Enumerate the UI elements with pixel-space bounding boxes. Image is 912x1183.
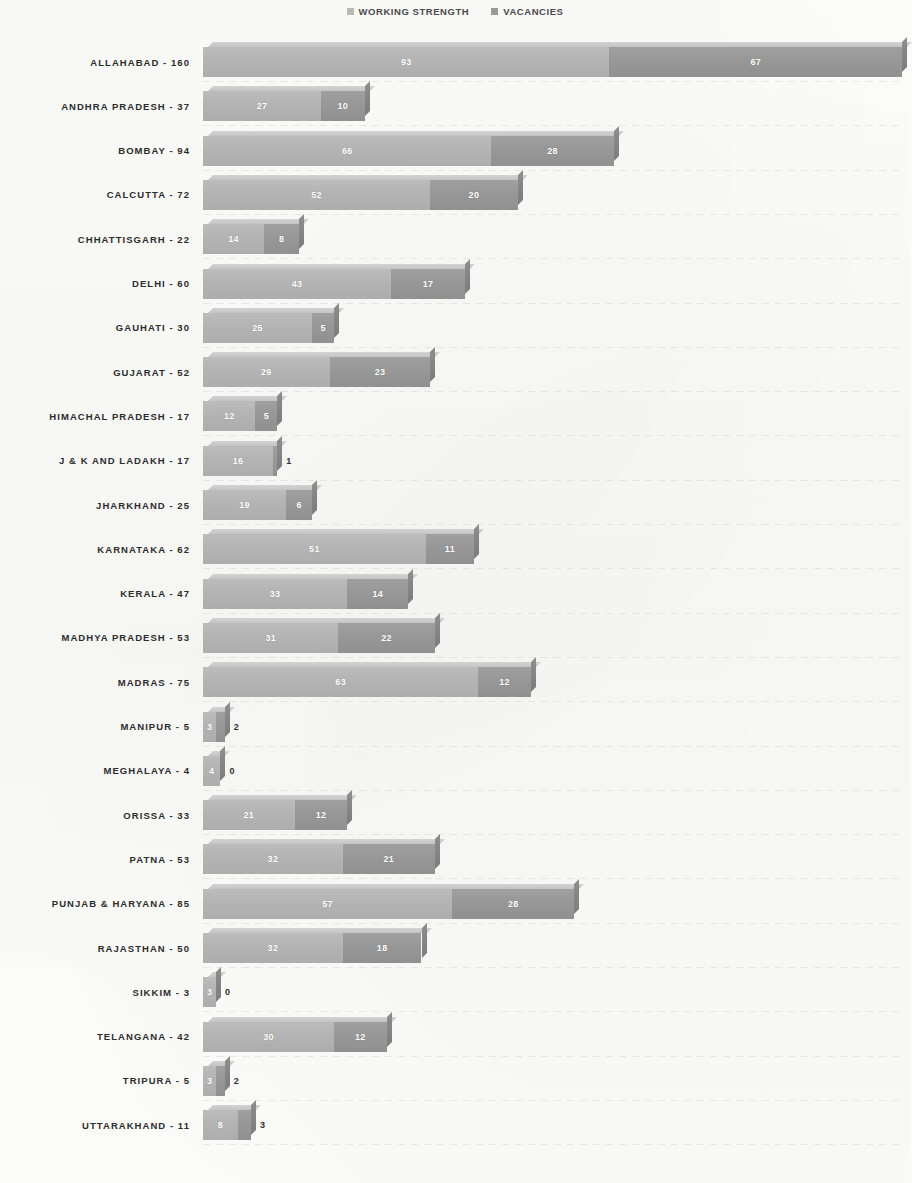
- category-label: PATNA - 53: [0, 837, 190, 881]
- bar-segment-vacancies[interactable]: 5: [255, 401, 277, 431]
- stacked-bar[interactable]: 6628: [203, 136, 614, 166]
- bar-segment-working-strength[interactable]: 25: [203, 313, 312, 343]
- stacked-bar[interactable]: 2923: [203, 357, 430, 387]
- stacked-bar[interactable]: 83: [203, 1110, 251, 1140]
- bar-segment-working-strength[interactable]: 8: [203, 1110, 238, 1140]
- bar-segment-vacancies[interactable]: 2: [216, 1066, 225, 1096]
- bar-segment-working-strength[interactable]: 29: [203, 357, 330, 387]
- bar-segment-working-strength[interactable]: 66: [203, 136, 491, 166]
- chart-row: ALLAHABAD - 1609367: [0, 40, 910, 84]
- bar-segment-vacancies[interactable]: 2: [216, 712, 225, 742]
- stacked-bar[interactable]: 40: [203, 756, 220, 786]
- stacked-bar[interactable]: 255: [203, 313, 334, 343]
- bar-segment-vacancies[interactable]: 12: [295, 800, 347, 830]
- stacked-bar[interactable]: 4317: [203, 269, 465, 299]
- chart-row: RAJASTHAN - 503218: [0, 926, 910, 970]
- bar-segment-working-strength[interactable]: 12: [203, 401, 255, 431]
- bar-segment-vacancies[interactable]: 11: [426, 534, 474, 564]
- bar-segment-working-strength[interactable]: 4: [203, 756, 220, 786]
- bar-segment-working-strength[interactable]: 3: [203, 1066, 216, 1096]
- bar-segment-working-strength[interactable]: 51: [203, 534, 426, 564]
- stacked-bar[interactable]: 148: [203, 224, 299, 254]
- chart-legend: WORKING STRENGTH VACANCIES: [0, 0, 910, 22]
- bar-segment-working-strength[interactable]: 3: [203, 712, 216, 742]
- bar-segment-working-strength[interactable]: 52: [203, 180, 430, 210]
- stacked-bar[interactable]: 9367: [203, 47, 902, 77]
- bar-value-working-strength: 12: [224, 411, 235, 421]
- stacked-bar[interactable]: 125: [203, 401, 277, 431]
- category-label: KARNATAKA - 62: [0, 527, 190, 571]
- bar-segment-working-strength[interactable]: 57: [203, 889, 452, 919]
- bar-segment-vacancies[interactable]: 10: [321, 91, 365, 121]
- bar-segment-working-strength[interactable]: 32: [203, 933, 343, 963]
- bar-segment-working-strength[interactable]: 21: [203, 800, 295, 830]
- bar-segment-vacancies[interactable]: 22: [338, 623, 434, 653]
- bar-segment-working-strength[interactable]: 3: [203, 977, 216, 1007]
- bar-segment-vacancies[interactable]: 12: [478, 667, 530, 697]
- bar-side-face: [365, 81, 370, 116]
- stacked-bar[interactable]: 5111: [203, 534, 474, 564]
- bar-segment-vacancies[interactable]: 21: [343, 844, 435, 874]
- chart-row: ANDHRA PRADESH - 372710: [0, 84, 910, 128]
- bar-value-working-strength: 3: [207, 987, 212, 997]
- chart-row: GUJARAT - 522923: [0, 350, 910, 394]
- bar-segment-working-strength[interactable]: 63: [203, 667, 478, 697]
- bar-side-face: [225, 1056, 230, 1091]
- bar-segment-vacancies[interactable]: 17: [391, 269, 465, 299]
- stacked-bar[interactable]: 30: [203, 977, 216, 1007]
- bar-value-vacancies: 1: [286, 456, 291, 466]
- bar-segment-vacancies[interactable]: 23: [330, 357, 431, 387]
- bar-segment-vacancies[interactable]: 6: [286, 490, 312, 520]
- bar-segment-working-strength[interactable]: 33: [203, 579, 347, 609]
- bar-value-vacancies: 20: [469, 190, 480, 200]
- bar-segment-working-strength[interactable]: 14: [203, 224, 264, 254]
- square-marker-icon: [347, 8, 354, 15]
- bar-segment-working-strength[interactable]: 32: [203, 844, 343, 874]
- bar-segment-working-strength[interactable]: 30: [203, 1022, 334, 1052]
- bar-segment-vacancies[interactable]: 8: [264, 224, 299, 254]
- chart-row: CALCUTTA - 725220: [0, 173, 910, 217]
- stacked-bar[interactable]: 3012: [203, 1022, 387, 1052]
- bar-segment-working-strength[interactable]: 19: [203, 490, 286, 520]
- chart-row: MANIPUR - 532: [0, 705, 910, 749]
- bar-side-face: [225, 702, 230, 737]
- bar-segment-vacancies[interactable]: 3: [238, 1110, 251, 1140]
- category-label: TRIPURA - 5: [0, 1059, 190, 1103]
- bar-value-vacancies: 3: [260, 1120, 265, 1130]
- bar-segment-working-strength[interactable]: 93: [203, 47, 609, 77]
- bar-segment-vacancies[interactable]: 18: [343, 933, 422, 963]
- bar-segment-vacancies[interactable]: 14: [347, 579, 408, 609]
- bar-value-vacancies: 5: [264, 411, 269, 421]
- bar-segment-working-strength[interactable]: 27: [203, 91, 321, 121]
- bar-value-working-strength: 14: [228, 234, 239, 244]
- stacked-bar[interactable]: 2112: [203, 800, 347, 830]
- stacked-bar[interactable]: 5728: [203, 889, 574, 919]
- stacked-bar[interactable]: 32: [203, 1066, 225, 1096]
- bar-side-face: [334, 303, 339, 338]
- chart-row: PUNJAB & HARYANA - 855728: [0, 882, 910, 926]
- bar-segment-working-strength[interactable]: 16: [203, 446, 273, 476]
- stacked-bar[interactable]: 3122: [203, 623, 435, 653]
- stacked-bar[interactable]: 6312: [203, 667, 531, 697]
- bar-segment-working-strength[interactable]: 43: [203, 269, 391, 299]
- stacked-bar[interactable]: 5220: [203, 180, 518, 210]
- stacked-bar[interactable]: 161: [203, 446, 277, 476]
- stacked-bar[interactable]: 32: [203, 712, 225, 742]
- stacked-bar[interactable]: 3218: [203, 933, 422, 963]
- stacked-bar[interactable]: 3221: [203, 844, 435, 874]
- bar-segment-vacancies[interactable]: 28: [452, 889, 574, 919]
- bar-segment-vacancies[interactable]: 5: [312, 313, 334, 343]
- bar-segment-vacancies[interactable]: 12: [334, 1022, 386, 1052]
- stacked-bar[interactable]: 196: [203, 490, 312, 520]
- bar-value-vacancies: 21: [383, 854, 394, 864]
- bar-segment-vacancies[interactable]: 67: [609, 47, 902, 77]
- bar-value-vacancies: 12: [316, 810, 327, 820]
- stacked-bar[interactable]: 2710: [203, 91, 365, 121]
- bar-side-face: [435, 613, 440, 648]
- bar-segment-working-strength[interactable]: 31: [203, 623, 338, 653]
- bar-segment-vacancies[interactable]: 28: [491, 136, 613, 166]
- bar-segment-vacancies[interactable]: 20: [430, 180, 517, 210]
- bar-side-face: [435, 834, 440, 869]
- stacked-bar[interactable]: 3314: [203, 579, 408, 609]
- bar-value-working-strength: 52: [311, 190, 322, 200]
